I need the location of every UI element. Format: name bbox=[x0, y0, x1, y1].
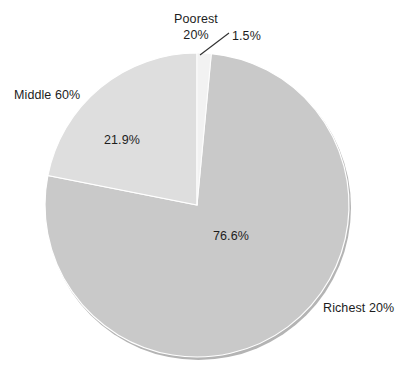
slice-label-richest: Richest 20% bbox=[323, 301, 394, 317]
pie-chart-figure: Poorest 20% 1.5% Middle 60% 21.9% Riches… bbox=[0, 0, 406, 381]
pie-chart-graphic bbox=[0, 0, 406, 381]
slice-value-poorest: 1.5% bbox=[232, 29, 261, 43]
slice-label-poorest: Poorest 20% bbox=[163, 12, 229, 43]
slice-value-middle: 21.9% bbox=[104, 133, 140, 147]
slice-label-poorest-line1: Poorest bbox=[174, 12, 218, 26]
slice-label-poorest-line2: 20% bbox=[163, 28, 229, 44]
slice-value-richest: 76.6% bbox=[213, 229, 249, 243]
slice-label-middle: Middle 60% bbox=[14, 88, 80, 104]
